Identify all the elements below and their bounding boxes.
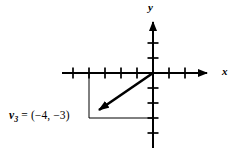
y-axis (148, 22, 159, 148)
y-axis-label: y (148, 2, 153, 13)
vector-arrow-v3 (99, 73, 153, 110)
vector-subscript: 3 (14, 115, 18, 124)
vector-label: v3 = (−4, −3) (9, 110, 70, 122)
coordinate-plane-svg (0, 0, 238, 155)
vector-diagram-figure: y x v3 = (−4, −3) (0, 0, 238, 155)
x-axis-label: x (222, 66, 228, 77)
equals-sign: = (21, 109, 28, 121)
x-axis (62, 68, 207, 79)
vector-coordinates: (−4, −3) (31, 109, 70, 121)
